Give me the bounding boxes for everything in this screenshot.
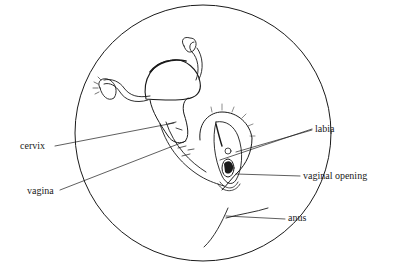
uterus: [145, 60, 200, 100]
diagram-artwork: [0, 0, 399, 263]
fallopian-tube-right: [190, 42, 202, 80]
label-vagina: vagina: [27, 186, 54, 196]
label-labia: labia: [315, 124, 334, 134]
fallopian-tube-left: [104, 79, 150, 101]
vulva: [200, 112, 252, 190]
label-vaginal-opening: vaginal opening: [303, 171, 367, 181]
buttock-line: [204, 208, 268, 247]
anatomy-diagram: cervix vagina labia vaginal opening anus: [0, 0, 399, 263]
leader-vaginal-opening: [236, 174, 300, 176]
leader-anus: [226, 216, 285, 219]
label-anus: anus: [288, 213, 306, 223]
leader-labia-2: [236, 130, 312, 152]
clitoris: [225, 148, 231, 154]
ovary-right: [182, 37, 196, 52]
ovary-left: [99, 79, 116, 100]
label-cervix: cervix: [20, 141, 45, 151]
leader-cervix: [55, 123, 174, 146]
cervix-shape: [150, 98, 188, 143]
